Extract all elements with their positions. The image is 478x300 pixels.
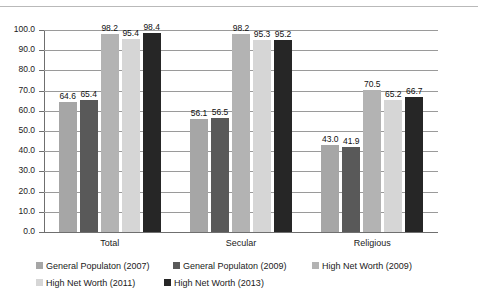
legend-item[interactable]: High Net Worth (2013) — [164, 278, 264, 289]
legend-label: General Populaton (2007) — [46, 261, 150, 272]
bar[interactable] — [321, 145, 339, 232]
legend-swatch-icon — [164, 279, 171, 286]
legend-row: High Net Worth (2011)High Net Worth (201… — [36, 278, 456, 295]
bar[interactable] — [274, 40, 292, 232]
bar[interactable] — [342, 147, 360, 232]
y-axis-tick-label: 100.0 — [0, 25, 35, 34]
bar[interactable] — [232, 34, 250, 232]
figure-top-rule — [0, 6, 478, 7]
y-axis-tick-label: 50.0 — [0, 126, 35, 135]
bar[interactable] — [211, 118, 229, 232]
category-label: Religious — [312, 238, 432, 248]
bar-group: 64.665.498.295.498.4 — [59, 30, 161, 232]
bar-value-label: 98.4 — [135, 23, 169, 32]
legend-swatch-icon — [36, 279, 43, 286]
bar[interactable] — [363, 90, 381, 232]
y-axis-tick-label: 0.0 — [0, 227, 35, 236]
legend-item[interactable]: High Net Worth (2009) — [312, 261, 412, 272]
bar[interactable] — [143, 33, 161, 232]
legend-item[interactable]: High Net Worth (2011) — [36, 278, 164, 289]
bar-value-label: 66.7 — [397, 87, 431, 96]
bar[interactable] — [101, 34, 119, 232]
bar-group: 56.156.598.295.395.2 — [190, 30, 292, 232]
bar[interactable] — [59, 102, 77, 232]
y-axis-tick-label: 70.0 — [0, 86, 35, 95]
y-axis-tick-label: 60.0 — [0, 106, 35, 115]
legend-label: High Net Worth (2013) — [174, 278, 264, 289]
plot-area: 64.665.498.295.498.456.156.598.295.395.2… — [44, 30, 438, 232]
legend-item[interactable]: General Populaton (2009) — [173, 261, 312, 272]
bar[interactable] — [384, 100, 402, 232]
axis-baseline — [44, 232, 438, 233]
y-axis-tick-label: 10.0 — [0, 207, 35, 216]
bar[interactable] — [122, 39, 140, 232]
legend-label: General Populaton (2009) — [183, 261, 287, 272]
legend-swatch-icon — [173, 262, 180, 269]
bar-value-label: 95.2 — [266, 30, 300, 39]
y-axis-tick-label: 80.0 — [0, 65, 35, 74]
y-axis-tick-label: 30.0 — [0, 166, 35, 175]
legend: General Populaton (2007)General Populato… — [36, 261, 456, 295]
bar-group: 43.041.970.565.266.7 — [321, 30, 423, 232]
chart-title-cropped — [248, 0, 444, 4]
legend-item[interactable]: General Populaton (2007) — [36, 261, 173, 272]
legend-label: High Net Worth (2009) — [322, 261, 412, 272]
legend-row: General Populaton (2007)General Populato… — [36, 261, 456, 278]
bar-chart: 100.090.080.070.060.050.040.030.020.010.… — [0, 0, 478, 300]
y-axis-tick-label: 20.0 — [0, 187, 35, 196]
bar[interactable] — [253, 40, 271, 233]
bar[interactable] — [405, 97, 423, 232]
y-axis-tick-label: 40.0 — [0, 146, 35, 155]
legend-label: High Net Worth (2011) — [46, 278, 135, 289]
legend-swatch-icon — [312, 262, 319, 269]
bar[interactable] — [190, 119, 208, 232]
y-axis-tick-label: 90.0 — [0, 45, 35, 54]
category-label: Secular — [181, 238, 301, 248]
bar[interactable] — [80, 100, 98, 232]
legend-swatch-icon — [36, 262, 43, 269]
bar-value-label: 70.5 — [355, 80, 389, 89]
category-label: Total — [50, 238, 170, 248]
